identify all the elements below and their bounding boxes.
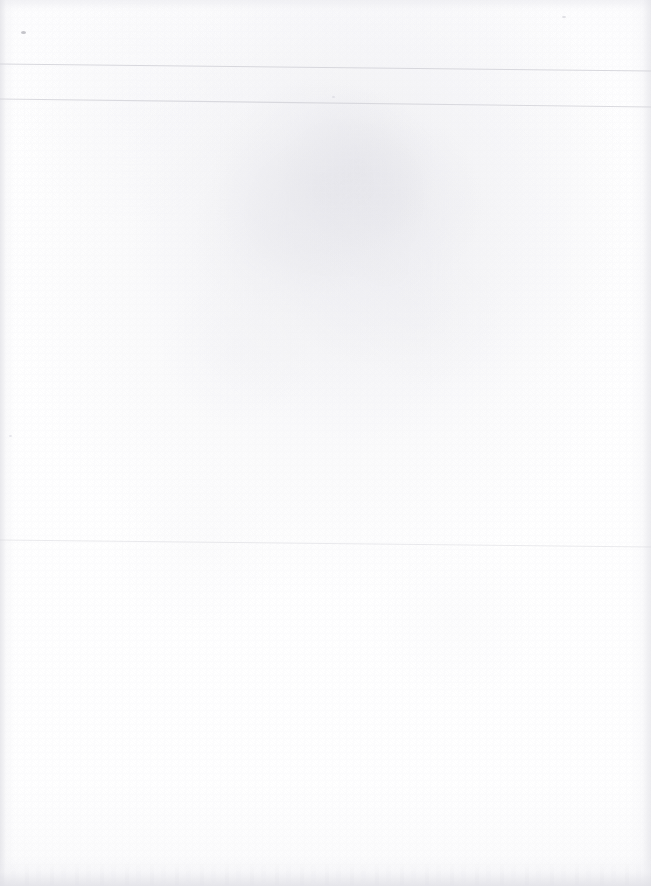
paper-speck-mid-left	[9, 435, 12, 437]
paper-speck-upper-right	[562, 16, 566, 18]
paper-speck-mid-right	[332, 96, 335, 98]
ruled-lines-group	[0, 0, 651, 886]
mid-rule-3	[0, 540, 651, 547]
top-rule-2	[0, 99, 651, 107]
top-rule-1	[0, 64, 651, 71]
scanned-page	[0, 0, 651, 886]
ink-speck-top-left	[21, 31, 26, 34]
